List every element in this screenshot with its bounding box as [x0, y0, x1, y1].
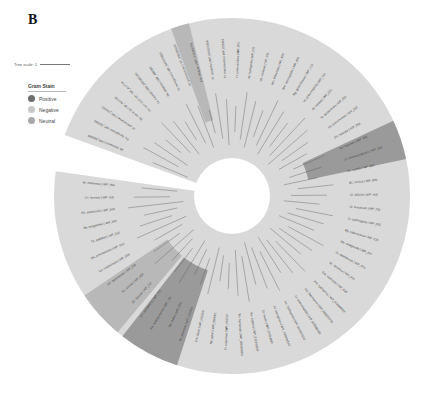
phylogenetic-tree: Ab. baumannii | WP_000000Ps. aeruginosa … — [0, 0, 432, 402]
tree-core — [194, 158, 270, 234]
leaf-label: Cx. burnetii | WP_005 — [85, 195, 115, 199]
leaf-label: Cl. difficile | WP_009 — [350, 193, 378, 197]
